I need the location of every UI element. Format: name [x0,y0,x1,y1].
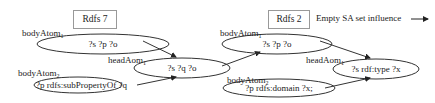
legend-label: Empty SA set influence [316,13,401,23]
rule-title-rdfs7: Rdfs 7 [73,10,117,29]
node-text-r1-head: ?s ?q ?o [140,63,224,73]
label-r1-body1: bodyAtom1 [22,28,64,41]
node-text-r2-head: ?s rdf:type ?x [334,64,418,74]
node-text-r1-body1: ?s ?p ?o [60,39,146,49]
rule-title-rdfs2: Rdfs 2 [268,10,310,29]
node-text-r1-body2: ?p rdfs:subPropertyOf ?q [36,80,122,90]
node-text-r2-body1: ?s ?p ?o [234,39,320,49]
node-text-r2-body2: ?p rdfs:domain ?x; [236,83,322,93]
